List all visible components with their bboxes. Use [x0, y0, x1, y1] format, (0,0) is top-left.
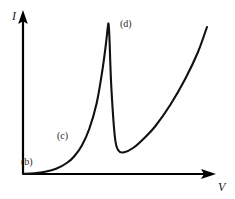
annotation-label-c: (c) — [57, 131, 68, 141]
y-axis — [18, 10, 28, 174]
annotation-label-b: (b) — [21, 157, 33, 167]
y-axis-label: I — [12, 10, 16, 22]
annotation-label-d: (d) — [120, 19, 132, 29]
iv-characteristic-figure: I V (b) (c) (d) — [0, 0, 235, 199]
x-axis-label: V — [218, 181, 225, 193]
plot-area — [0, 0, 235, 199]
iv-curve — [23, 23, 207, 174]
